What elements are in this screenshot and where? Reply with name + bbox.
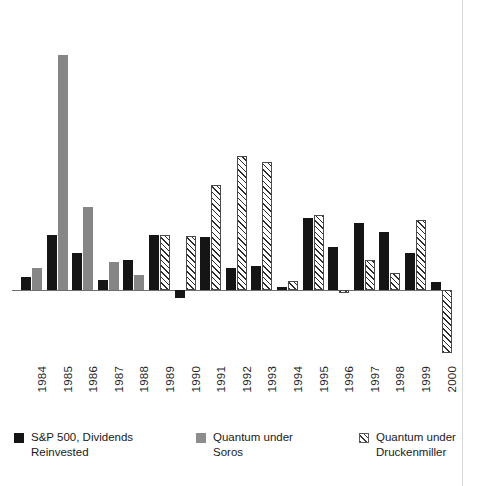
bar-sp500 (149, 235, 159, 290)
bar-group (226, 18, 252, 363)
bar-druckenmiller (339, 290, 349, 293)
bar-druckenmiller (237, 156, 247, 290)
x-axis-year-label: 1995 (317, 366, 331, 420)
bar-sp500 (47, 235, 57, 290)
legend-swatch-druckenmiller-icon (359, 433, 369, 443)
bar-sp500 (405, 253, 415, 290)
bar-group (431, 18, 457, 363)
bar-group (149, 18, 175, 363)
bar-sp500 (303, 218, 313, 290)
bar-druckenmiller (416, 220, 426, 290)
bar-group (303, 18, 329, 363)
x-axis-year-label: 1996 (342, 366, 356, 420)
x-axis-year-label: 1987 (112, 366, 126, 420)
bar-sp500 (226, 268, 236, 290)
bar-group (200, 18, 226, 363)
legend-swatch-soros-icon (196, 433, 206, 443)
x-axis-year-label: 1992 (240, 366, 254, 420)
x-axis-year-label: 1994 (291, 366, 305, 420)
plot-area (12, 18, 448, 363)
x-axis-year-label: 1993 (265, 366, 279, 420)
x-axis-year-label: 1986 (86, 366, 100, 420)
bar-group (277, 18, 303, 363)
bar-group (379, 18, 405, 363)
bar-druckenmiller (314, 215, 324, 290)
bar-druckenmiller (442, 290, 452, 353)
bar-druckenmiller (160, 235, 170, 290)
bar-sp500 (431, 282, 441, 290)
x-axis-year-label: 1999 (419, 366, 433, 420)
bar-sp500 (98, 280, 108, 290)
bar-soros (109, 262, 119, 290)
bar-group (405, 18, 431, 363)
x-axis-year-label: 1989 (163, 366, 177, 420)
bar-group (123, 18, 149, 363)
bar-druckenmiller (262, 162, 272, 290)
bar-soros (32, 268, 42, 290)
bar-druckenmiller (288, 281, 298, 290)
legend-label-soros: Quantum under Soros (213, 430, 293, 460)
bar-sp500 (328, 247, 338, 290)
bar-group (328, 18, 354, 363)
bar-soros (58, 55, 68, 290)
x-axis-year-labels: 1984198519861987198819891990199119921993… (12, 366, 448, 420)
bar-sp500 (175, 290, 185, 298)
bar-group (175, 18, 201, 363)
x-axis-year-label: 1997 (368, 366, 382, 420)
bar-sp500 (277, 287, 287, 290)
legend-item-druckenmiller: Quantum under Druckenmiller (359, 430, 489, 460)
bar-soros (134, 275, 144, 290)
bar-sp500 (379, 232, 389, 290)
bar-group (72, 18, 98, 363)
legend-swatch-sp500-icon (14, 433, 24, 443)
x-axis-year-label: 2000 (445, 366, 459, 420)
chart-legend: S&P 500, Dividends Reinvested Quantum un… (12, 430, 464, 476)
x-axis-year-label: 1988 (137, 366, 151, 420)
x-axis-year-label: 1984 (35, 366, 49, 420)
bar-druckenmiller (365, 260, 375, 290)
bar-sp500 (200, 237, 210, 290)
x-axis-year-label: 1991 (214, 366, 228, 420)
bar-group (21, 18, 47, 363)
bar-group (354, 18, 380, 363)
legend-label-sp500: S&P 500, Dividends Reinvested (31, 430, 133, 460)
legend-item-sp500: S&P 500, Dividends Reinvested (14, 430, 184, 460)
bar-druckenmiller (186, 236, 196, 290)
bar-druckenmiller (390, 273, 400, 290)
x-axis-year-label: 1998 (393, 366, 407, 420)
bar-group (47, 18, 73, 363)
bar-group (251, 18, 277, 363)
bar-sp500 (251, 266, 261, 290)
bar-sp500 (21, 277, 31, 290)
bar-sp500 (354, 223, 364, 290)
legend-label-druckenmiller: Quantum under Druckenmiller (376, 430, 456, 460)
legend-item-soros: Quantum under Soros (196, 430, 346, 460)
bar-soros (83, 207, 93, 290)
x-axis-year-label: 1990 (189, 366, 203, 420)
bar-group (98, 18, 124, 363)
bar-chart: 1984198519861987198819891990199119921993… (0, 0, 491, 486)
x-axis-year-label: 1985 (61, 366, 75, 420)
bar-sp500 (123, 260, 133, 290)
bar-druckenmiller (211, 185, 221, 290)
bar-sp500 (72, 253, 82, 290)
